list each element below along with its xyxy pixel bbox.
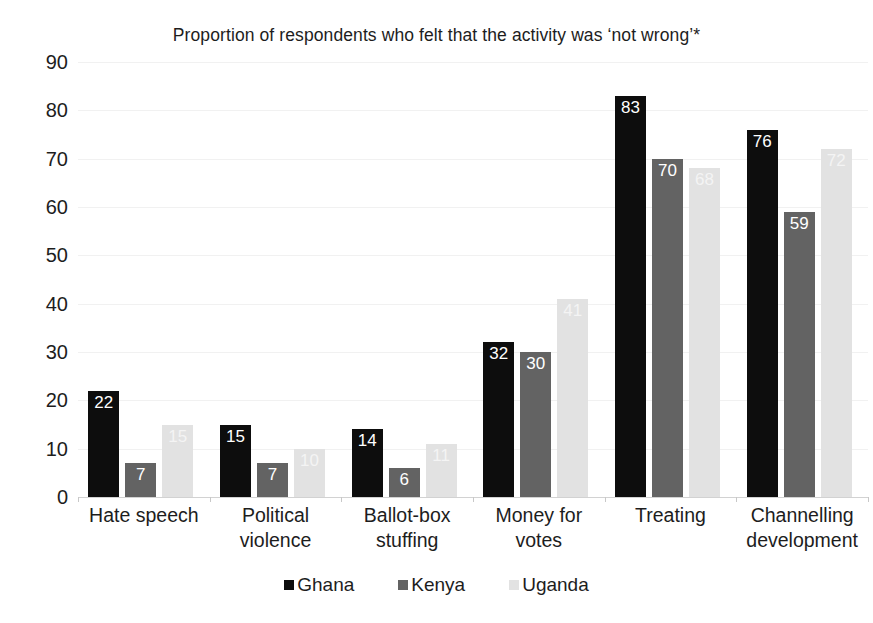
bar-kenya-4[interactable]: 30 <box>520 352 551 497</box>
legend-label: Ghana <box>297 575 354 594</box>
bar-value-label: 15 <box>162 428 193 446</box>
bar-value-label: 7 <box>125 466 156 484</box>
bar-value-label: 10 <box>294 452 325 470</box>
bar-value-label: 32 <box>483 345 514 363</box>
bar-group: 837068 <box>615 62 720 497</box>
legend-item-kenya[interactable]: Kenya <box>398 575 465 594</box>
y-axis-tick-label: 50 <box>22 245 68 265</box>
bar-value-label: 59 <box>784 215 815 233</box>
bar-value-label: 41 <box>557 302 588 320</box>
legend-swatch-icon <box>509 580 519 590</box>
bar-group: 15710 <box>220 62 325 497</box>
bar-ghana-5[interactable]: 83 <box>615 96 646 497</box>
y-axis-tick-label: 10 <box>22 439 68 459</box>
bar-ghana-6[interactable]: 76 <box>747 130 778 497</box>
bar-chart: Proportion of respondents who felt that … <box>0 0 873 623</box>
x-axis-category-labels: Hate speechPoliticalviolenceBallot-boxst… <box>78 503 868 563</box>
bar-value-label: 72 <box>821 152 852 170</box>
bar-value-label: 30 <box>520 355 551 373</box>
bar-ghana-3[interactable]: 14 <box>352 429 383 497</box>
bar-value-label: 22 <box>88 394 119 412</box>
bar-value-label: 7 <box>257 466 288 484</box>
bar-group: 14611 <box>352 62 457 497</box>
bar-kenya-5[interactable]: 70 <box>652 159 683 497</box>
bar-ghana-4[interactable]: 32 <box>483 342 514 497</box>
y-axis-tick-label: 20 <box>22 390 68 410</box>
bar-uganda-4[interactable]: 41 <box>557 299 588 497</box>
y-axis-tick-label: 30 <box>22 342 68 362</box>
bar-group: 323041 <box>483 62 588 497</box>
x-axis-label-line: Channelling <box>718 503 873 528</box>
bar-uganda-3[interactable]: 11 <box>426 444 457 497</box>
bar-value-label: 15 <box>220 428 251 446</box>
bar-uganda-2[interactable]: 10 <box>294 449 325 497</box>
bar-value-label: 11 <box>426 447 457 465</box>
y-axis-tick-label: 60 <box>22 197 68 217</box>
bar-value-label: 83 <box>615 99 646 117</box>
bar-value-label: 76 <box>747 133 778 151</box>
x-axis-label-6: Channellingdevelopment <box>718 503 873 553</box>
plot-area: 227151571014611323041837068765972 <box>78 62 868 497</box>
y-axis-tick-label: 70 <box>22 149 68 169</box>
x-axis-label-line: votes <box>455 528 623 553</box>
bar-kenya-1[interactable]: 7 <box>125 463 156 497</box>
legend-item-ghana[interactable]: Ghana <box>284 575 354 594</box>
bar-uganda-6[interactable]: 72 <box>821 149 852 497</box>
bar-group: 22715 <box>88 62 193 497</box>
bar-value-label: 6 <box>389 471 420 489</box>
y-axis-tick-label: 90 <box>22 52 68 72</box>
legend-swatch-icon <box>284 580 294 590</box>
y-axis-tick-label: 80 <box>22 100 68 120</box>
x-axis-tick <box>473 497 474 502</box>
y-axis-tick-label: 40 <box>22 294 68 314</box>
legend-label: Kenya <box>411 575 465 594</box>
bar-value-label: 68 <box>689 171 720 189</box>
bar-ghana-1[interactable]: 22 <box>88 391 119 497</box>
bar-group: 765972 <box>747 62 852 497</box>
x-axis-tick <box>736 497 737 502</box>
x-axis-tick <box>605 497 606 502</box>
legend-label: Uganda <box>522 575 589 594</box>
x-axis-tick <box>210 497 211 502</box>
bar-kenya-6[interactable]: 59 <box>784 212 815 497</box>
x-axis-tick <box>78 497 79 502</box>
y-axis-labels: 0102030405060708090 <box>14 0 68 623</box>
bar-ghana-2[interactable]: 15 <box>220 425 251 498</box>
bar-value-label: 14 <box>352 432 383 450</box>
x-axis-label-line: development <box>718 528 873 553</box>
chart-legend: GhanaKenyaUganda <box>0 575 873 594</box>
bar-uganda-1[interactable]: 15 <box>162 425 193 498</box>
x-axis-tick <box>341 497 342 502</box>
bar-kenya-3[interactable]: 6 <box>389 468 420 497</box>
legend-swatch-icon <box>398 580 408 590</box>
legend-item-uganda[interactable]: Uganda <box>509 575 589 594</box>
bar-value-label: 70 <box>652 162 683 180</box>
bar-uganda-5[interactable]: 68 <box>689 168 720 497</box>
x-axis-tick <box>868 497 869 502</box>
bar-kenya-2[interactable]: 7 <box>257 463 288 497</box>
chart-title: Proportion of respondents who felt that … <box>0 25 873 46</box>
